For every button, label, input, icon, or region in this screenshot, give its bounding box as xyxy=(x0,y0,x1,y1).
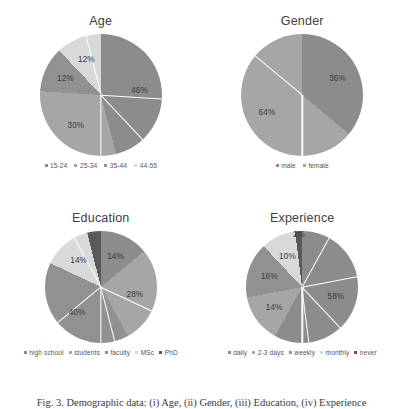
pie-data-label: 14% xyxy=(266,303,283,312)
legend-item[interactable]: weekly xyxy=(289,349,315,356)
chart-title-gender: Gender xyxy=(281,14,324,28)
chart-title-experience: Experience xyxy=(270,211,335,225)
pie-slice-separator xyxy=(100,287,101,343)
legend-label: male xyxy=(281,162,296,169)
legend-label: high school xyxy=(29,349,63,356)
pie-data-label: 14% xyxy=(70,256,87,265)
legend-swatch-icon xyxy=(289,351,292,354)
legend-item[interactable]: faculty xyxy=(105,349,130,356)
legend-swatch-icon xyxy=(74,164,77,167)
chart-panel-gender: Gender 36%64% malefemale xyxy=(202,0,403,203)
legend-swatch-icon xyxy=(276,164,279,167)
chart-panel-experience: Experience 58%14%16%10%2% daily2-3 daysw… xyxy=(202,203,403,393)
pie-data-label: 46% xyxy=(131,86,148,95)
legend-education: high schoolstudentsfacultyMScPhD xyxy=(24,349,178,356)
legend-item[interactable]: 35-44 xyxy=(104,162,127,169)
pie-data-label: 40% xyxy=(69,308,86,317)
pie-data-label: 16% xyxy=(261,272,278,281)
pie-data-label: 64% xyxy=(259,107,276,116)
pie-data-label: 14% xyxy=(107,251,124,260)
legend-label: PhD xyxy=(165,349,178,356)
figure-caption-text: Fig. 3. Demographic data: (i) Age, (ii) … xyxy=(0,397,403,409)
figure-caption: Fig. 3. Demographic data: (i) Age, (ii) … xyxy=(0,396,403,409)
pie-data-label: 10% xyxy=(279,251,296,260)
pie-education: 14%28%40%14% xyxy=(45,231,157,343)
legend-item[interactable]: never xyxy=(354,349,377,356)
pie-experience: 58%14%16%10%2% xyxy=(246,231,358,343)
legend-item[interactable]: students xyxy=(69,349,100,356)
figure-container: Age 46%30%12%12% 15-2425-3435-4444-55 Ge… xyxy=(0,0,403,409)
chart-panel-age: Age 46%30%12%12% 15-2425-3435-4444-55 xyxy=(0,0,202,203)
pie-age: 46%30%12%12% xyxy=(40,34,162,156)
legend-label: 35-44 xyxy=(110,162,127,169)
legend-label: 2-3 days xyxy=(258,349,284,356)
pie-data-label: 58% xyxy=(328,291,345,300)
legend-swatch-icon xyxy=(105,351,108,354)
legend-swatch-icon xyxy=(135,351,138,354)
legend-item[interactable]: male xyxy=(276,162,296,169)
legend-item[interactable]: 2-3 days xyxy=(252,349,284,356)
chart-grid: Age 46%30%12%12% 15-2425-3435-4444-55 Ge… xyxy=(0,0,403,393)
pie-data-label: 2% xyxy=(293,230,305,239)
legend-swatch-icon xyxy=(134,164,137,167)
legend-swatch-icon xyxy=(354,351,357,354)
legend-swatch-icon xyxy=(69,351,72,354)
legend-label: never xyxy=(360,349,377,356)
legend-item[interactable]: daily xyxy=(228,349,248,356)
legend-item[interactable]: 44-55 xyxy=(134,162,157,169)
legend-label: monthly xyxy=(326,349,350,356)
legend-item[interactable]: PhD xyxy=(159,349,178,356)
legend-experience: daily2-3 daysweeklymonthlynever xyxy=(228,349,377,356)
legend-swatch-icon xyxy=(104,164,107,167)
legend-item[interactable]: monthly xyxy=(320,349,349,356)
legend-age: 15-2425-3435-4444-55 xyxy=(45,162,158,169)
legend-item[interactable]: high school xyxy=(24,349,64,356)
pie-slice-separator xyxy=(100,95,101,156)
legend-swatch-icon xyxy=(303,164,306,167)
legend-label: 25-34 xyxy=(80,162,97,169)
legend-swatch-icon xyxy=(228,351,231,354)
pie-gender: 36%64% xyxy=(241,34,363,156)
legend-swatch-icon xyxy=(159,351,162,354)
legend-gender: malefemale xyxy=(276,162,329,169)
legend-label: students xyxy=(74,349,100,356)
legend-item[interactable]: 25-34 xyxy=(74,162,97,169)
pie-data-label: 12% xyxy=(78,54,95,63)
legend-label: weekly xyxy=(294,349,315,356)
legend-label: daily xyxy=(233,349,247,356)
legend-label: 44-55 xyxy=(140,162,157,169)
legend-item[interactable]: female xyxy=(303,162,329,169)
pie-data-label: 30% xyxy=(68,121,85,130)
chart-panel-education: Education 14%28%40%14% high schoolstuden… xyxy=(0,203,202,393)
legend-swatch-icon xyxy=(24,351,27,354)
legend-label: MSc xyxy=(141,349,155,356)
legend-label: female xyxy=(308,162,328,169)
legend-item[interactable]: 15-24 xyxy=(45,162,68,169)
legend-swatch-icon xyxy=(45,164,48,167)
chart-title-education: Education xyxy=(72,211,129,225)
pie-slice-separator xyxy=(302,95,303,156)
pie-data-label: 28% xyxy=(127,289,144,298)
legend-item[interactable]: MSc xyxy=(135,349,154,356)
chart-title-age: Age xyxy=(89,14,112,28)
pie-data-label: 36% xyxy=(329,74,346,83)
legend-label: 15-24 xyxy=(50,162,67,169)
legend-label: faculty xyxy=(110,349,130,356)
legend-swatch-icon xyxy=(252,351,255,354)
pie-data-label: 12% xyxy=(57,74,74,83)
legend-swatch-icon xyxy=(320,351,323,354)
